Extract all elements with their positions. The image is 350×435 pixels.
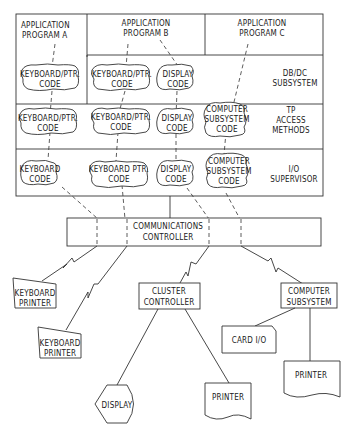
svg-text:PRINTER: PRINTER [19,299,51,308]
svg-text:CODE: CODE [110,123,132,132]
svg-text:DISPLAY: DISPLAY [163,70,194,79]
application-program-b: APPLICATION PROGRAM B [122,19,171,38]
printer-device-subsystem: PRINTER [284,361,340,397]
svg-text:CODE: CODE [167,80,189,89]
cluster-controller-device: CLUSTER CONTROLLER [117,283,229,385]
svg-text:COMPUTER: COMPUTER [206,105,248,114]
svg-text:CODE: CODE [166,124,188,133]
application-program-c: APPLICATION PROGRAM C [238,19,287,38]
svg-text:TP: TP [285,106,296,115]
svg-text:CODE: CODE [165,175,187,184]
code-module-io-b-display: DISPLAY CODE [157,160,194,186]
svg-text:SUPERVISOR: SUPERVISOR [270,175,318,184]
svg-text:CODE: CODE [37,124,59,133]
svg-text:KEYBOARD/PTR.: KEYBOARD/PTR. [18,114,78,123]
card-io-device: CARD I/O [222,326,276,353]
svg-text:CLUSTER: CLUSTER [152,287,186,296]
svg-text:I/O: I/O [289,165,300,174]
svg-text:KEYBOARD PTR.: KEYBOARD PTR. [89,165,149,174]
svg-text:PRINTER: PRINTER [295,371,327,380]
code-module-tp-a-keyboard-printer: KEYBOARD/PTR. CODE [18,108,78,135]
svg-text:CODE: CODE [108,175,130,184]
svg-text:METHODS: METHODS [272,126,310,135]
code-module-dbdc-b-keyboard-printer: KEYBOARD/PTR. CODE [91,64,152,91]
svg-text:CODE: CODE [216,125,238,134]
svg-text:SUBSYSTEM: SUBSYSTEM [272,79,317,88]
svg-text:CODE: CODE [39,80,61,89]
svg-text:PROGRAM A: PROGRAM A [22,31,67,40]
svg-text:ACCESS: ACCESS [276,116,306,125]
svg-text:CODE: CODE [29,175,51,184]
code-module-io-c-computer-subsystem: COMPUTER SUBSYSTEM CODE [206,153,252,188]
svg-text:DB/DC: DB/DC [283,69,307,78]
code-module-dbdc-b-display: DISPLAY CODE [157,64,194,90]
code-module-io-a-keyboard: KEYBOARD CODE [19,160,60,184]
code-module-tp-b-keyboard-printer: KEYBOARD/PTR. CODE [91,108,151,135]
svg-text:SUBSYSTEM: SUBSYSTEM [286,298,331,307]
keyboard-printer-device-1: KEYBOARD PRINTER [13,278,56,308]
communications-controller: COMMUNICATIONS CONTROLLER [67,218,321,246]
svg-text:PRINTER: PRINTER [212,393,244,402]
svg-text:COMMUNICATIONS: COMMUNICATIONS [133,222,203,231]
svg-text:COMPUTER: COMPUTER [208,157,250,166]
code-module-io-b-keyboard-printer: KEYBOARD PTR. CODE [89,161,149,188]
svg-text:PRINTER: PRINTER [44,349,76,358]
svg-text:KEYBOARD/PTR.: KEYBOARD/PTR. [92,70,152,79]
code-module-tp-c-computer-subsystem: COMPUTER SUBSYSTEM CODE [204,102,250,137]
svg-text:APPLICATION: APPLICATION [238,19,287,28]
printer-device-cluster: PRINTER [205,383,251,419]
svg-text:KEYBOARD: KEYBOARD [19,165,60,174]
svg-text:CONTROLLER: CONTROLLER [143,233,194,242]
svg-text:PROGRAM C: PROGRAM C [239,29,285,38]
application-program-a: APPLICATION PROGRAM A [21,21,70,40]
keyboard-printer-device-2: KEYBOARD PRINTER [38,327,81,358]
svg-text:CARD I/O: CARD I/O [232,336,267,345]
svg-text:KEYBOARD/PTR.: KEYBOARD/PTR. [20,70,80,79]
svg-text:COMPUTER: COMPUTER [288,287,330,296]
display-device: DISPLAY [95,385,134,423]
svg-text:SUBSYSTEM: SUBSYSTEM [206,167,251,176]
svg-text:KEYBOARD: KEYBOARD [14,289,55,298]
code-module-tp-b-display: DISPLAY CODE [157,108,194,134]
svg-text:CODE: CODE [218,177,240,186]
svg-text:PROGRAM B: PROGRAM B [123,29,168,38]
code-module-dbdc-a-keyboard-printer: KEYBOARD/PTR. CODE [20,64,80,91]
svg-text:KEYBOARD: KEYBOARD [39,339,80,348]
svg-text:APPLICATION: APPLICATION [21,21,70,30]
svg-text:DISPLAY: DISPLAY [162,114,193,123]
network-architecture-diagram: APPLICATION PROGRAM A APPLICATION PROGRA… [0,0,350,435]
svg-text:KEYBOARD/PTR.: KEYBOARD/PTR. [91,113,151,122]
svg-text:APPLICATION: APPLICATION [122,19,171,28]
svg-text:DISPLAY: DISPLAY [102,401,133,410]
svg-text:CODE: CODE [111,80,133,89]
svg-text:CONTROLLER: CONTROLLER [144,298,195,307]
svg-text:DISPLAY: DISPLAY [161,165,192,174]
svg-text:SUBSYSTEM: SUBSYSTEM [204,115,249,124]
